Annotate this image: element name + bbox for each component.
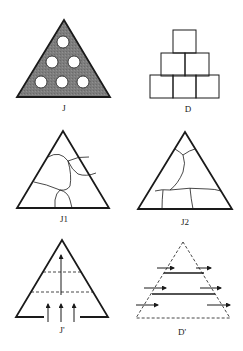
panel-j1: J1: [17, 131, 109, 224]
panel-label-j-prime: J': [59, 325, 65, 335]
panel-label-j: J: [62, 103, 66, 113]
panel-j2: J2: [138, 132, 232, 227]
block: [150, 75, 173, 98]
block: [196, 75, 219, 98]
diagram-canvas: J D J1 J2: [0, 0, 243, 351]
triangle-outline-left: [16, 240, 108, 317]
panel-label-d: D: [185, 104, 192, 114]
triangle-outline: [17, 131, 109, 208]
panel-j: J: [17, 20, 110, 113]
panel-d: D: [150, 30, 219, 114]
triangle-outline: [138, 132, 232, 209]
panel-j-prime: J': [16, 240, 108, 335]
cracks: [155, 149, 221, 209]
panel-d-prime: D': [136, 242, 230, 337]
block: [161, 53, 185, 76]
panel-label-j1: J1: [60, 214, 68, 224]
dashed-triangle: [136, 242, 230, 318]
block: [173, 75, 196, 98]
block: [173, 30, 196, 53]
panel-label-d-prime: D': [178, 327, 186, 337]
panel-label-j2: J2: [181, 217, 189, 227]
block: [185, 53, 209, 76]
